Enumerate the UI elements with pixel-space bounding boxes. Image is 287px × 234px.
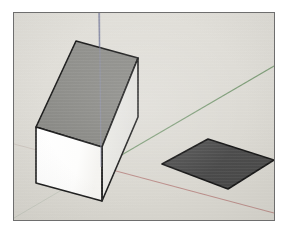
modeling-viewport[interactable]	[13, 12, 275, 221]
screenshot-root	[0, 0, 287, 234]
viewport-scene[interactable]	[14, 13, 274, 220]
